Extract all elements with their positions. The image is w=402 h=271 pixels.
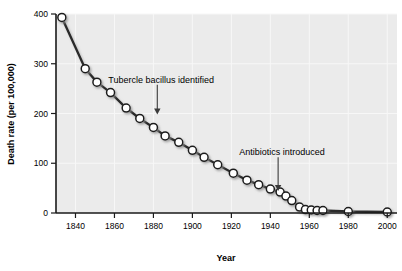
data-point-marker <box>255 181 263 189</box>
data-point-marker <box>136 114 144 122</box>
annotation-label-antibiotics-introduced: Antibiotics introduced <box>239 147 325 157</box>
x-tick-label: 1880 <box>144 221 163 231</box>
data-point-marker <box>161 132 169 140</box>
data-point-marker <box>229 169 237 177</box>
x-tick-label: 1980 <box>339 221 358 231</box>
x-tick-label: 1940 <box>261 221 280 231</box>
y-tick-label: 0 <box>43 208 48 218</box>
data-point-marker <box>93 78 101 86</box>
data-point-marker <box>149 123 157 131</box>
data-point-marker <box>107 89 115 97</box>
data-point-marker <box>175 138 183 146</box>
data-point-marker <box>122 104 130 112</box>
x-tick-label: 1860 <box>105 221 124 231</box>
y-tick-label: 200 <box>34 109 48 119</box>
x-tick-label: 2000 <box>378 221 397 231</box>
data-point-marker <box>214 161 222 169</box>
data-point-marker <box>266 185 274 193</box>
y-tick-label: 300 <box>34 59 48 69</box>
data-point-marker <box>243 176 251 184</box>
tuberculosis-death-rate-chart: 184018601880190019201940196019802000 010… <box>0 0 402 271</box>
data-point-marker <box>200 153 208 161</box>
x-axis-title: Year <box>216 253 236 263</box>
data-point-marker <box>81 65 89 73</box>
annotation-label-tubercle-bacillus-identified: Tubercle bacillus identified <box>108 75 214 85</box>
x-tick-label: 1920 <box>222 221 241 231</box>
y-axis-title: Death rate (per 100,000) <box>6 63 16 165</box>
x-tick-label: 1900 <box>183 221 202 231</box>
data-point-marker <box>288 197 296 205</box>
x-tick-label: 1960 <box>300 221 319 231</box>
x-tick-label: 1840 <box>66 221 85 231</box>
y-axis-ticks: 0100200300400 <box>34 9 56 218</box>
data-point-marker <box>188 146 196 154</box>
y-tick-label: 400 <box>34 9 48 19</box>
y-tick-label: 100 <box>34 158 48 168</box>
data-point-marker <box>58 13 66 21</box>
chart-canvas: 184018601880190019201940196019802000 010… <box>0 0 402 271</box>
